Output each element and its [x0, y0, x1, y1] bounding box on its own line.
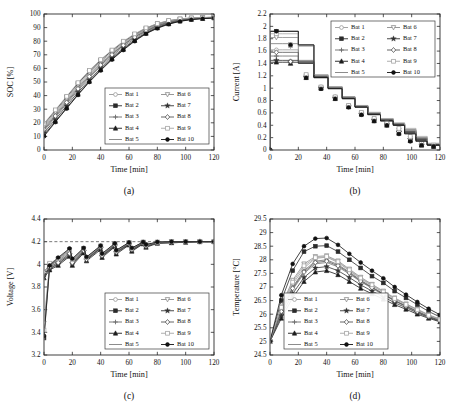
- legend-label: Bat 10: [177, 135, 194, 142]
- legend-label: Bat 6: [177, 90, 191, 97]
- legend-label: Bat 3: [351, 45, 365, 52]
- y-tick-label: 0.6: [258, 109, 267, 117]
- legend-label: Bat 10: [177, 340, 194, 347]
- y-tick-label: 0.4: [258, 122, 267, 130]
- x-tick-label: 100: [180, 359, 191, 367]
- legend-label: Bat 6: [177, 295, 191, 302]
- y-tick-label: 27.5: [254, 270, 267, 278]
- y-axis-title: Current [A]: [232, 63, 241, 102]
- x-tick-label: 0: [42, 154, 46, 162]
- subplot-b: 02040608010012000.20.40.60.811.21.41.61.…: [226, 0, 452, 204]
- subplot-d: 02040608010012024.52525.52626.52727.5282…: [226, 205, 452, 409]
- legend-label: Bat 3: [125, 317, 139, 324]
- legend-label: Bat 1: [125, 295, 139, 302]
- legend-label: Bat 9: [177, 329, 191, 336]
- x-tick-label: 20: [295, 359, 303, 367]
- x-tick-label: 80: [380, 359, 388, 367]
- x-tick-label: 40: [323, 359, 331, 367]
- y-tick-label: 0: [263, 146, 267, 154]
- y-tick-label: 0: [37, 146, 41, 154]
- y-tick-label: 29.5: [254, 215, 267, 223]
- y-tick-label: 70: [33, 51, 41, 59]
- y-tick-label: 3.8: [32, 283, 41, 291]
- x-tick-label: 20: [69, 154, 77, 162]
- y-tick-label: 40: [33, 92, 41, 100]
- y-tick-label: 28.5: [254, 243, 267, 251]
- y-tick-label: 50: [33, 78, 41, 86]
- y-tick-label: 26.5: [254, 297, 267, 305]
- x-tick-label: 60: [351, 154, 359, 162]
- legend-label: Bat 7: [177, 306, 191, 313]
- legend-label: Bat 4: [125, 329, 139, 336]
- legend-label: Bat 5: [125, 340, 139, 347]
- x-tick-label: 40: [97, 359, 105, 367]
- legend-label: Bat 5: [304, 340, 318, 347]
- y-tick-label: 0.2: [258, 134, 267, 142]
- legend-label: Bat 4: [125, 124, 139, 131]
- x-tick-label: 100: [406, 154, 417, 162]
- legend-label: Bat 2: [351, 34, 365, 41]
- panel-label: (a): [124, 186, 135, 197]
- x-tick-label: 60: [125, 359, 133, 367]
- x-tick-label: 0: [268, 359, 272, 367]
- y-tick-label: 4.2: [32, 238, 41, 246]
- legend-label: Bat 9: [356, 329, 370, 336]
- y-tick-label: 26: [259, 311, 267, 319]
- y-tick-label: 24.5: [254, 351, 267, 359]
- x-tick-label: 120: [209, 154, 220, 162]
- legend-label: Bat 9: [177, 124, 191, 131]
- legend-label: Bat 5: [125, 135, 139, 142]
- y-tick-label: 28: [259, 256, 267, 264]
- x-tick-label: 80: [154, 154, 162, 162]
- x-tick-label: 120: [435, 359, 446, 367]
- legend-label: Bat 2: [125, 306, 139, 313]
- subplot-a: 0204060801001200102030405060708090100Tim…: [0, 0, 226, 204]
- x-tick-label: 20: [295, 154, 303, 162]
- legend-label: Bat 4: [304, 329, 318, 336]
- y-tick-label: 60: [33, 65, 41, 73]
- legend: Bat 1Bat 2Bat 3Bat 4Bat 5Bat 6Bat 7Bat 8…: [105, 293, 209, 349]
- legend-label: Bat 1: [125, 90, 139, 97]
- legend-label: Bat 8: [356, 317, 370, 324]
- x-tick-label: 120: [209, 359, 220, 367]
- y-tick-label: 2: [263, 23, 267, 31]
- legend-label: Bat 3: [125, 112, 139, 119]
- legend-label: Bat 10: [356, 340, 373, 347]
- legend: Bat 1Bat 2Bat 3Bat 4Bat 5Bat 6Bat 7Bat 8…: [284, 293, 388, 349]
- legend-label: Bat 8: [177, 317, 191, 324]
- y-tick-label: 90: [33, 24, 41, 32]
- x-axis-title: Time [min]: [336, 370, 374, 379]
- y-axis-title: SOC [%]: [6, 67, 15, 98]
- subplot-c: 0204060801001203.23.43.63.844.24.4Time […: [0, 205, 226, 409]
- y-tick-label: 1.6: [258, 47, 267, 55]
- legend: Bat 1Bat 2Bat 3Bat 4Bat 5Bat 6Bat 7Bat 8…: [105, 88, 209, 144]
- legend-label: Bat 1: [351, 23, 365, 30]
- panel-label: (d): [349, 391, 360, 402]
- legend-label: Bat 7: [177, 101, 191, 108]
- legend-label: Bat 9: [403, 57, 417, 64]
- y-tick-label: 1: [263, 85, 267, 93]
- legend-label: Bat 6: [356, 295, 370, 302]
- y-tick-label: 1.8: [258, 35, 267, 43]
- legend-label: Bat 5: [351, 68, 365, 75]
- legend-label: Bat 8: [403, 45, 417, 52]
- y-tick-label: 100: [30, 10, 41, 18]
- legend-label: Bat 2: [125, 101, 139, 108]
- legend-label: Bat 10: [403, 68, 420, 75]
- x-tick-label: 100: [180, 154, 191, 162]
- x-tick-label: 100: [406, 359, 417, 367]
- x-tick-label: 60: [351, 359, 359, 367]
- x-tick-label: 40: [323, 154, 331, 162]
- panel-label: (c): [124, 391, 135, 402]
- legend-label: Bat 8: [177, 112, 191, 119]
- y-tick-label: 2.2: [258, 10, 267, 18]
- y-tick-label: 4.4: [32, 215, 41, 223]
- y-axis-title: Voltage [V]: [6, 268, 15, 307]
- y-tick-label: 10: [33, 133, 41, 141]
- x-tick-label: 80: [154, 359, 162, 367]
- x-axis-title: Time [min]: [336, 165, 374, 174]
- legend-label: Bat 6: [403, 23, 417, 30]
- y-tick-label: 30: [33, 106, 41, 114]
- y-tick-label: 25: [259, 338, 267, 346]
- y-tick-label: 27: [259, 283, 267, 291]
